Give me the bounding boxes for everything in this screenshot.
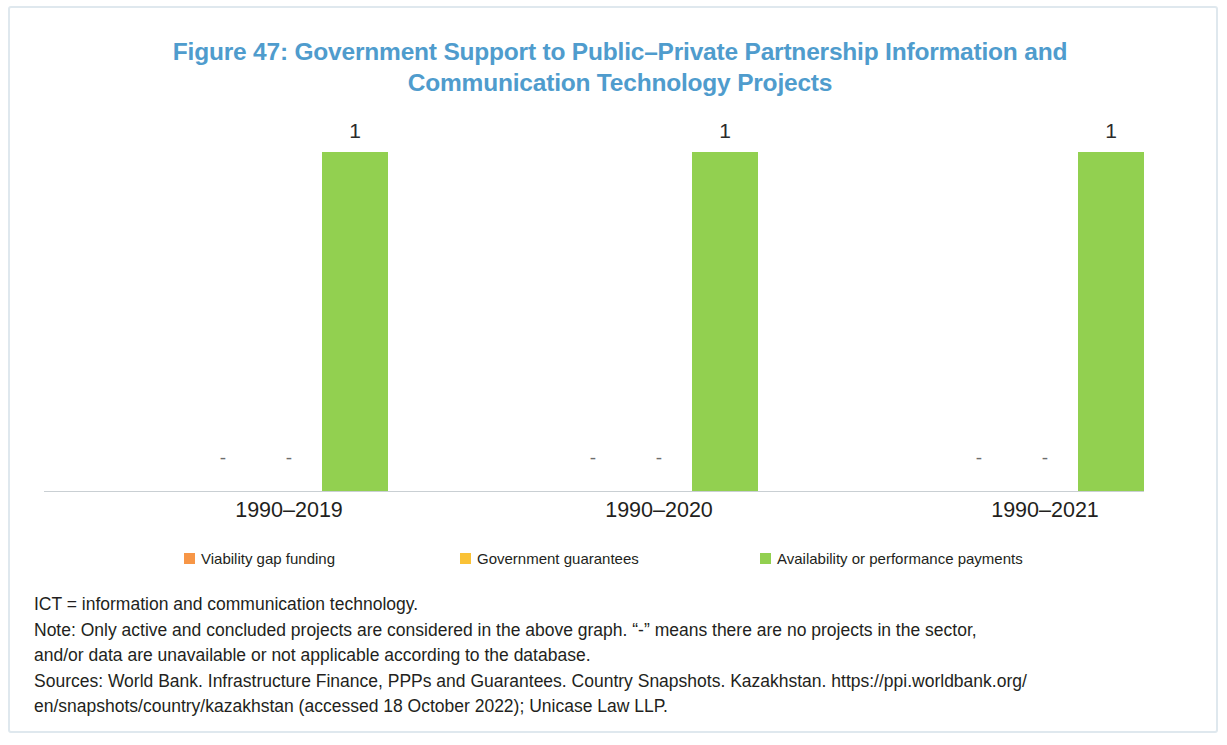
bar-slot-government-guarantees-2: - bbox=[626, 112, 692, 491]
figure-footnotes: ICT = information and communication tech… bbox=[34, 592, 1204, 720]
footnote-sources-line-2: en/snapshots/country/kazakhstan (accesse… bbox=[34, 694, 1204, 720]
bar-value-label: 1 bbox=[1078, 119, 1144, 143]
legend-swatch-icon bbox=[760, 553, 771, 564]
bar-slot-viability-gap-funding-2: - bbox=[560, 112, 626, 491]
bar-value-dash: - bbox=[590, 448, 596, 491]
legend-item-viability-gap-funding[interactable]: Viability gap funding bbox=[184, 550, 335, 567]
bar-value-dash: - bbox=[1042, 448, 1048, 491]
bar-slot-government-guarantees-1: - bbox=[256, 112, 322, 491]
legend-item-availability-payments[interactable]: Availability or performance payments bbox=[760, 550, 1023, 567]
bar-chart: - - 1 - - 1 bbox=[44, 112, 1144, 492]
bar-group-1990-2019: - - 1 bbox=[154, 112, 424, 491]
table-row[interactable] bbox=[692, 152, 758, 491]
legend-item-label: Government guarantees bbox=[477, 550, 639, 567]
page-title: Figure 47: Government Support to Public–… bbox=[100, 36, 1140, 98]
bar-value-dash: - bbox=[286, 448, 292, 491]
footnote-note-line-1: Note: Only active and concluded projects… bbox=[34, 618, 1204, 644]
bar-slot-availability-payments-3: 1 bbox=[1078, 112, 1144, 491]
bar-value-dash: - bbox=[656, 448, 662, 491]
legend-item-label: Availability or performance payments bbox=[777, 550, 1023, 567]
x-axis-tick-label-2: 1990–2020 bbox=[524, 498, 794, 523]
bar-value-label: 1 bbox=[322, 119, 388, 143]
x-axis-line bbox=[44, 491, 1144, 492]
bar-group-1990-2021: - - 1 bbox=[910, 112, 1180, 491]
bar-slot-availability-payments-2: 1 bbox=[692, 112, 758, 491]
x-axis-tick-label-3: 1990–2021 bbox=[910, 498, 1180, 523]
table-row[interactable] bbox=[322, 152, 388, 491]
table-row[interactable] bbox=[1078, 152, 1144, 491]
bar-slot-viability-gap-funding-1: - bbox=[190, 112, 256, 491]
bar-slot-viability-gap-funding-3: - bbox=[946, 112, 1012, 491]
legend-item-label: Viability gap funding bbox=[201, 550, 335, 567]
bar-value-dash: - bbox=[976, 448, 982, 491]
footnote-abbreviation: ICT = information and communication tech… bbox=[34, 592, 1204, 618]
bar-value-dash: - bbox=[220, 448, 226, 491]
legend-item-government-guarantees[interactable]: Government guarantees bbox=[460, 550, 639, 567]
bar-slot-availability-payments-1: 1 bbox=[322, 112, 388, 491]
bar-value-label: 1 bbox=[692, 119, 758, 143]
footnote-note-line-2: and/or data are unavailable or not appli… bbox=[34, 643, 1204, 669]
x-axis-labels: 1990–2019 1990–2020 1990–2021 bbox=[44, 498, 1144, 528]
figure-page: Figure 47: Government Support to Public–… bbox=[0, 0, 1227, 745]
footnote-sources-line-1: Sources: World Bank. Infrastructure Fina… bbox=[34, 669, 1204, 695]
x-axis-tick-label-1: 1990–2019 bbox=[154, 498, 424, 523]
plot-area: - - 1 - - 1 bbox=[44, 112, 1144, 492]
bar-group-1990-2020: - - 1 bbox=[524, 112, 794, 491]
legend-swatch-icon bbox=[460, 553, 471, 564]
chart-legend: Viability gap funding Government guarant… bbox=[44, 550, 1144, 574]
legend-swatch-icon bbox=[184, 553, 195, 564]
bar-slot-government-guarantees-3: - bbox=[1012, 112, 1078, 491]
